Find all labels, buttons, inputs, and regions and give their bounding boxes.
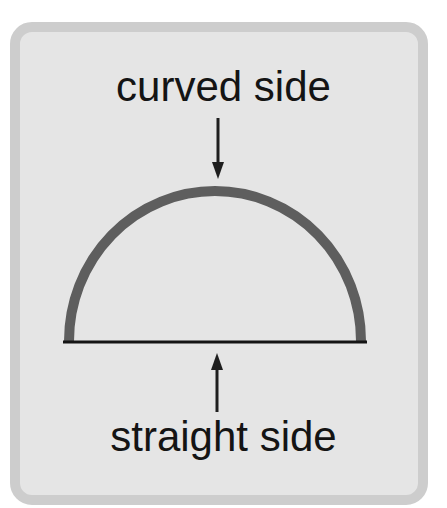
curved-side-arc [69, 191, 361, 341]
down-arrow-icon [212, 118, 224, 179]
up-arrow-icon [211, 353, 223, 412]
straight-side-label: straight side [0, 416, 447, 458]
